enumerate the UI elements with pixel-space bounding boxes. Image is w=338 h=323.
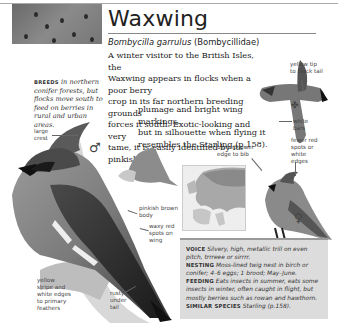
leader-line — [279, 121, 292, 122]
label-blurred-lower-edge: blurred lower edge to bib — [217, 144, 259, 158]
male-symbol: ♂ — [89, 140, 101, 155]
species-info-box: VOICE Silvery, high, metallic trill on e… — [180, 238, 328, 319]
leader-line — [295, 162, 296, 176]
leader-line — [52, 135, 78, 136]
label-yellow-tip: yellow tip to black tail — [290, 61, 324, 75]
voice-label: VOICE — [186, 246, 205, 252]
label-yellow-stripe: yellow stripe and white edges to primary… — [37, 277, 71, 312]
flight-icon: ✤ — [291, 100, 299, 110]
label-rusty-under-tail: rusty under tail — [110, 290, 134, 311]
feeding-label: FEEDING — [186, 278, 214, 284]
similar-species-text: Starling (p.158). — [243, 303, 291, 309]
female-symbol: ♀ — [294, 211, 303, 225]
label-waxy-red-spots: waxy red spots on wing — [149, 223, 179, 244]
similar-species-label: SIMILAR SPECIES — [186, 303, 241, 309]
label-pinkish-brown-body: pinkish brown body — [139, 205, 179, 219]
voice-text: Silvery, high, metallic trill on even pi… — [186, 246, 308, 260]
info-text: VOICE Silvery, high, metallic trill on e… — [186, 245, 324, 310]
europe-map-graphic — [183, 166, 245, 230]
label-fewer-red-spots: fewer red spots or white edges — [291, 137, 323, 165]
nesting-label: NESTING — [186, 262, 214, 268]
label-white-bars: white bars — [293, 118, 317, 132]
distribution-map — [182, 165, 246, 231]
